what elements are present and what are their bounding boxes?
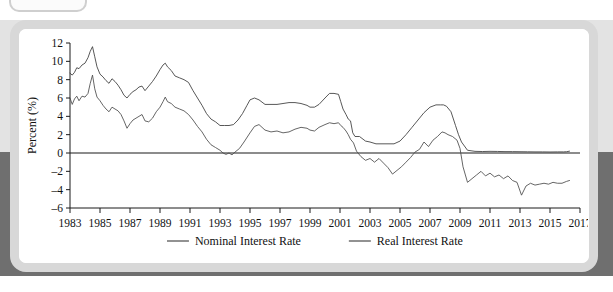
- cropped-pill-chrome: [9, 0, 87, 12]
- x-tick-label: 2007: [419, 217, 442, 229]
- x-tick-label: 1989: [149, 217, 172, 229]
- x-tick-label: 2011: [479, 217, 502, 229]
- chart-series-group: [70, 47, 570, 196]
- x-tick-label: 1999: [299, 217, 322, 229]
- y-axis-title: Percent (%): [25, 97, 39, 154]
- x-tick-label: 2009: [449, 217, 472, 229]
- x-tick-label: 2001: [329, 217, 352, 229]
- y-tick-label: –6: [51, 202, 64, 214]
- x-tick-label: 1993: [209, 217, 232, 229]
- y-tick-label: –2: [51, 165, 64, 177]
- chart-tick-labels: –6–4–20246810121983198519871989199119931…: [25, 37, 588, 229]
- chart-legend: Nominal Interest RateReal Interest Rate: [167, 234, 463, 248]
- x-tick-label: 1987: [119, 217, 142, 229]
- interest-rate-line-chart: –6–4–20246810121983198519871989199119931…: [22, 32, 588, 260]
- x-tick-label: 1991: [179, 217, 202, 229]
- x-tick-label: 1983: [59, 217, 82, 229]
- chart-container: –6–4–20246810121983198519871989199119931…: [22, 32, 588, 260]
- x-tick-label: 2015: [539, 217, 562, 229]
- series-line-nominal: [70, 47, 570, 152]
- x-tick-label: 2017: [569, 217, 589, 229]
- x-tick-label: 1995: [239, 217, 262, 229]
- y-tick-label: 2: [57, 129, 63, 141]
- y-tick-label: –4: [51, 184, 64, 196]
- series-line-real: [70, 75, 570, 195]
- chart-axes: [66, 43, 580, 213]
- x-tick-label: 2005: [389, 217, 412, 229]
- y-tick-label: 4: [57, 110, 63, 122]
- x-tick-label: 2013: [509, 217, 532, 229]
- legend-label-real: Real Interest Rate: [377, 234, 463, 248]
- x-tick-label: 2003: [359, 217, 382, 229]
- y-tick-label: 0: [57, 147, 63, 159]
- legend-label-nominal: Nominal Interest Rate: [195, 234, 301, 248]
- x-tick-label: 1997: [269, 217, 292, 229]
- y-tick-label: 6: [57, 92, 63, 104]
- y-tick-label: 8: [57, 74, 63, 86]
- y-tick-label: 10: [52, 55, 64, 67]
- y-tick-label: 12: [52, 37, 64, 49]
- x-tick-label: 1985: [89, 217, 112, 229]
- figure-root: –6–4–20246810121983198519871989199119931…: [0, 0, 613, 292]
